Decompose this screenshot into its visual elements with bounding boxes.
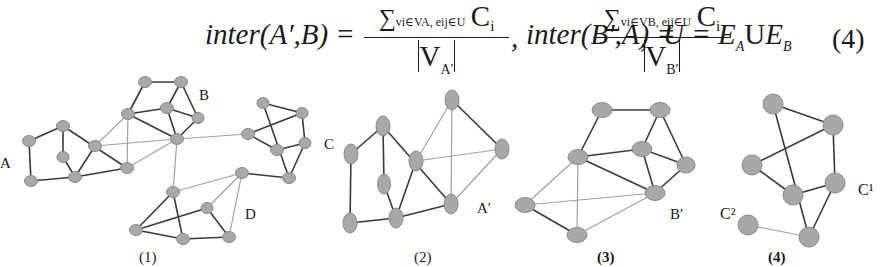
- panel-3: B′ (3): [515, 103, 695, 267]
- cluster-label-d: D: [245, 206, 256, 222]
- panel-4-dark-edges: [752, 104, 835, 237]
- cluster-label-a: A: [0, 155, 11, 171]
- panel-2: A′ (2): [343, 90, 509, 266]
- panel-2-caption: (2): [414, 249, 432, 266]
- panel-4-caption: (4): [768, 249, 786, 266]
- panel-1-nodes: [23, 77, 312, 245]
- panel-1: A B C D (1): [0, 77, 334, 267]
- panel-3-caption: (3): [597, 249, 615, 266]
- cluster-label-c2: C²: [720, 205, 736, 222]
- panel-2-light-edges: [416, 100, 502, 204]
- figure-graphs: A B C D (1): [0, 0, 893, 267]
- panel-1-caption: (1): [139, 249, 157, 266]
- cluster-label-b: B: [199, 87, 209, 103]
- cluster-label-a-prime: A′: [477, 200, 491, 216]
- cluster-label-c1: C¹: [858, 181, 874, 198]
- panel-3-light-edges: [525, 157, 655, 235]
- cluster-label-c: C: [324, 136, 334, 152]
- cluster-label-b-prime: B′: [670, 206, 683, 222]
- panel-3-nodes: [515, 103, 695, 243]
- panel-3-dark-edges: [525, 110, 686, 235]
- panel-4: C¹ C² (4): [720, 94, 874, 266]
